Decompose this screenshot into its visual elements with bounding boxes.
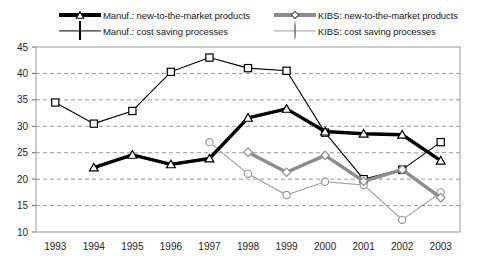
line-chart: 1015202530354045 19931994199519961997199… (0, 40, 481, 260)
diamond-marker-icon (291, 11, 300, 20)
square-data-point (437, 139, 444, 146)
x-axis-tick-label: 1994 (83, 241, 106, 252)
x-axis-tick-label: 2001 (353, 241, 376, 252)
gridlines (36, 73, 460, 205)
chart-legend: Manuf.: new-to-the-market products KIBS:… (0, 8, 481, 40)
legend-key-manuf-new (59, 9, 101, 21)
square-data-point (52, 99, 59, 106)
legend-label-manuf-new: Manuf.: new-to-the-market products (103, 10, 250, 21)
x-axis-tick-label: 2003 (430, 241, 453, 252)
series-line (94, 109, 441, 168)
x-axis-tick-label: 1996 (160, 241, 183, 252)
square-data-point (129, 107, 136, 114)
legend-key-kibs-cost (274, 25, 316, 37)
legend-label-manuf-cost: Manuf.: cost saving processes (103, 26, 228, 37)
x-axis-tick-label: 1997 (198, 241, 221, 252)
y-axis-tick-label: 15 (17, 200, 29, 211)
square-data-point (283, 67, 290, 74)
y-axis-tick-label: 35 (17, 94, 29, 105)
y-axis-tick-label: 30 (17, 121, 29, 132)
square-data-point (90, 120, 97, 127)
x-axis-tick-label: 1998 (237, 241, 260, 252)
legend-item-kibs-cost: KIBS: cost saving processes (274, 25, 436, 37)
legend-item-kibs-new: KIBS: new-to-the-market products (274, 9, 458, 21)
y-tick-marks (32, 47, 36, 232)
chart-canvas: 1015202530354045 19931994199519961997199… (0, 40, 481, 260)
circle-data-point (321, 178, 328, 185)
y-axis-tick-label: 20 (17, 174, 29, 185)
y-axis-tick-label: 40 (17, 68, 29, 79)
circle-marker-icon (294, 22, 296, 40)
y-axis-tick-label: 45 (17, 42, 29, 53)
chart-page: Manuf.: new-to-the-market products KIBS:… (0, 0, 481, 260)
legend-item-manuf-new: Manuf.: new-to-the-market products (59, 9, 250, 21)
series-line (248, 152, 441, 197)
triangle-marker-icon (76, 11, 85, 19)
y-axis-tick-label: 25 (17, 147, 29, 158)
x-axis-tick-label: 1993 (44, 241, 67, 252)
square-data-point (206, 54, 213, 61)
circle-data-point (244, 170, 251, 177)
square-data-point (244, 65, 251, 72)
legend-key-manuf-cost (59, 25, 101, 37)
plot-frame (36, 47, 460, 232)
series-layer (52, 54, 445, 223)
x-axis-labels: 1993199419951996199719981999200020012002… (44, 241, 452, 252)
circle-data-point (283, 191, 290, 198)
legend-label-kibs-new: KIBS: new-to-the-market products (318, 10, 458, 21)
square-data-point (167, 68, 174, 75)
legend-label-kibs-cost: KIBS: cost saving processes (318, 26, 436, 37)
x-axis-tick-label: 1999 (275, 241, 298, 252)
legend-item-manuf-cost: Manuf.: cost saving processes (59, 25, 228, 37)
x-axis-tick-label: 2002 (391, 241, 414, 252)
x-axis-tick-label: 2000 (314, 241, 337, 252)
x-axis-tick-label: 1995 (121, 241, 144, 252)
y-axis-tick-label: 10 (17, 227, 29, 238)
circle-data-point (399, 216, 406, 223)
legend-key-kibs-new (274, 9, 316, 21)
y-axis-labels: 1015202530354045 (17, 42, 29, 238)
circle-data-point (206, 139, 213, 146)
square-marker-icon (79, 22, 81, 40)
